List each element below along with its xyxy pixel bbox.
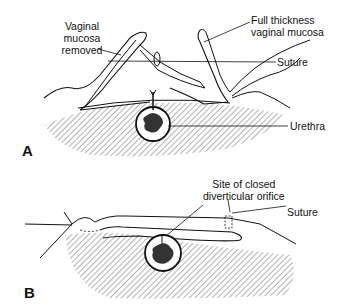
label-line: diverticular orifice bbox=[203, 190, 285, 202]
label-full-thickness: Full thickness vaginal mucosa bbox=[251, 14, 324, 38]
diagram-artwork bbox=[0, 0, 337, 308]
panel-label-b: B bbox=[24, 284, 35, 301]
label-line: mucosa bbox=[56, 32, 108, 44]
panel-label-a: A bbox=[22, 142, 33, 159]
label-line: Full thickness bbox=[251, 14, 324, 26]
label-vaginal-mucosa-removed: Vaginal mucosa removed bbox=[56, 20, 108, 56]
right-flap bbox=[170, 30, 228, 104]
label-suture-a: Suture bbox=[277, 56, 308, 68]
periurethral-tissue-b bbox=[65, 232, 294, 298]
label-line: Vaginal bbox=[56, 20, 108, 32]
label-line: vaginal mucosa bbox=[251, 26, 324, 38]
label-line: removed bbox=[56, 44, 108, 56]
label-line: Site of closed bbox=[203, 178, 285, 190]
label-site-closed-orifice: Site of closed diverticular orifice bbox=[203, 178, 285, 202]
label-suture-b: Suture bbox=[287, 206, 318, 218]
label-urethra: Urethra bbox=[290, 120, 325, 132]
